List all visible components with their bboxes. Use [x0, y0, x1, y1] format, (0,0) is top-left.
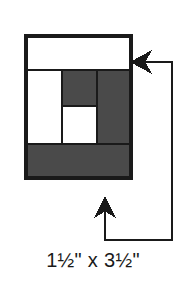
patch-right-dark-strip [97, 70, 131, 144]
patch-center-light-square [62, 106, 97, 144]
patch-top-light-strip [26, 36, 131, 70]
dimension-caption: 1½" x 3½" [0, 248, 186, 272]
patch-bottom-dark-strip [26, 144, 131, 178]
patch-left-light-strip [26, 70, 62, 144]
figure-root: 1½" x 3½" [0, 0, 186, 297]
patch-top-center-dark-patch [62, 70, 97, 106]
